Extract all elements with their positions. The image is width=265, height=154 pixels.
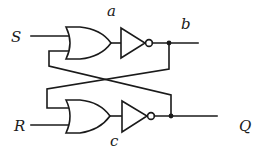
or-gate-bottom <box>66 100 110 133</box>
not-gate-bottom <box>122 101 147 132</box>
not-gate-top <box>121 28 145 58</box>
label-q: Q <box>239 117 251 135</box>
b-feedback-wire <box>47 43 169 108</box>
not-bubble-top <box>146 40 153 47</box>
or-gate-top <box>66 27 111 59</box>
junction-dot-q <box>169 114 174 119</box>
label-r: R <box>13 117 25 135</box>
top-feedback-input-wire <box>49 51 171 116</box>
sr-latch-diagram: S a b R c Q <box>0 0 265 154</box>
label-b: b <box>181 15 191 33</box>
label-c: c <box>110 132 119 150</box>
label-s: S <box>11 28 21 46</box>
not-bubble-bottom <box>148 113 155 120</box>
label-a: a <box>107 2 116 20</box>
